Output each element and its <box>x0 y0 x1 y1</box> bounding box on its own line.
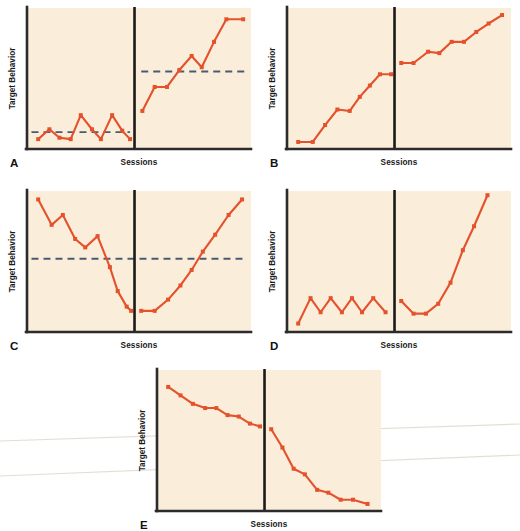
data-point <box>462 40 466 44</box>
data-point <box>108 265 112 269</box>
data-point <box>389 72 393 76</box>
data-point <box>296 322 300 326</box>
data-point <box>412 61 416 65</box>
data-point <box>329 296 333 300</box>
data-point <box>326 491 330 495</box>
data-point <box>36 137 40 141</box>
data-point <box>116 289 120 293</box>
data-point <box>190 268 194 272</box>
data-point <box>319 310 323 314</box>
x-axis-label: Sessions <box>251 520 288 529</box>
data-point <box>248 422 252 426</box>
data-point <box>140 109 144 113</box>
data-point <box>368 84 372 88</box>
data-point <box>437 51 441 55</box>
data-point <box>280 446 284 450</box>
panel-e: Target BehaviorSessionsE <box>130 362 390 531</box>
data-point <box>474 30 478 34</box>
y-axis-label: Target Behavior <box>138 409 147 472</box>
data-point <box>191 402 195 406</box>
data-point <box>226 413 230 417</box>
data-point <box>436 302 440 306</box>
data-point <box>366 502 370 506</box>
data-point <box>90 127 94 131</box>
data-point <box>371 296 375 300</box>
data-point <box>378 72 382 76</box>
data-point <box>110 113 114 117</box>
data-point <box>200 65 204 69</box>
data-point <box>177 68 181 72</box>
data-point <box>350 296 354 300</box>
panel-a: Target BehaviorSessionsA <box>0 0 260 169</box>
data-point <box>128 137 132 141</box>
data-point <box>311 140 315 144</box>
data-point <box>99 137 103 141</box>
data-point <box>358 95 362 99</box>
y-axis-label: Target Behavior <box>268 230 277 293</box>
data-point <box>73 237 77 241</box>
data-point <box>96 234 100 238</box>
data-point <box>461 248 465 252</box>
data-point <box>500 13 504 17</box>
data-point <box>472 224 476 228</box>
data-point <box>351 498 355 502</box>
data-point <box>241 17 245 21</box>
data-point <box>360 310 364 314</box>
panel-letter-e: E <box>140 519 148 531</box>
data-point <box>129 309 133 313</box>
data-point <box>292 467 296 471</box>
data-point <box>125 305 129 309</box>
data-point <box>335 108 339 112</box>
data-point <box>424 312 428 316</box>
data-point <box>165 85 169 89</box>
data-point <box>348 109 352 113</box>
data-point <box>213 233 217 237</box>
data-point <box>83 245 87 249</box>
data-point <box>153 85 157 89</box>
plot-area-background <box>27 8 251 149</box>
data-point <box>296 140 300 144</box>
x-axis-label: Sessions <box>381 158 418 167</box>
plot-area-background <box>287 8 511 149</box>
data-point <box>384 310 388 314</box>
data-point <box>214 406 218 410</box>
data-point <box>303 472 307 476</box>
data-point <box>485 193 489 197</box>
data-point <box>179 393 183 397</box>
data-point <box>487 22 491 26</box>
panel-c: Target BehaviorSessionsC <box>0 183 260 352</box>
data-point <box>79 113 83 117</box>
data-point <box>178 283 182 287</box>
panel-letter-a: A <box>10 157 18 169</box>
plot-area-background <box>27 191 251 332</box>
data-point <box>212 40 216 44</box>
data-point <box>120 129 124 133</box>
data-point <box>203 406 207 410</box>
data-point <box>166 385 170 389</box>
data-point <box>69 137 73 141</box>
panel-letter-d: D <box>270 340 278 352</box>
data-point <box>47 127 51 131</box>
data-point <box>153 309 157 313</box>
data-point <box>57 136 61 140</box>
x-axis-label: Sessions <box>121 158 158 167</box>
x-axis-label: Sessions <box>121 341 158 350</box>
plot-area-background <box>157 370 381 511</box>
y-axis-label: Target Behavior <box>8 230 17 293</box>
data-point <box>201 250 205 254</box>
data-point <box>61 213 65 217</box>
x-axis-label: Sessions <box>381 341 418 350</box>
y-axis-label: Target Behavior <box>8 47 17 110</box>
data-point <box>166 298 170 302</box>
data-point <box>339 498 343 502</box>
data-point <box>412 312 416 316</box>
data-point <box>50 223 54 227</box>
y-axis-label: Target Behavior <box>268 47 277 110</box>
panel-b: Target BehaviorSessionsB <box>260 0 520 169</box>
data-point <box>315 488 319 492</box>
panel-letter-b: B <box>270 157 278 169</box>
data-point <box>237 415 241 419</box>
data-point <box>449 281 453 285</box>
panel-d: Target BehaviorSessionsD <box>260 183 520 352</box>
data-point <box>399 299 403 303</box>
